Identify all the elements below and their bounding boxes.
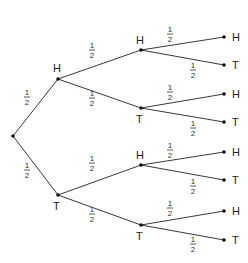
fraction-denominator: 2 xyxy=(90,215,95,224)
outcome-heads-label: H xyxy=(232,88,240,100)
tree-branch xyxy=(141,50,224,65)
probability-fraction: 12 xyxy=(190,61,196,80)
probability-fraction: 12 xyxy=(89,89,95,108)
tree-node xyxy=(139,223,143,227)
outcome-tails-label: T xyxy=(53,200,60,212)
outcome-tails-label: T xyxy=(232,116,239,128)
fraction-numerator: 1 xyxy=(191,177,196,186)
fraction-numerator: 1 xyxy=(191,235,196,244)
tree-branch xyxy=(141,108,224,122)
probability-fraction: 12 xyxy=(167,199,173,218)
tree-branch xyxy=(58,79,141,108)
tree-branch xyxy=(141,211,224,225)
fraction-numerator: 1 xyxy=(168,199,173,208)
probability-fraction: 12 xyxy=(167,25,173,44)
tree-node xyxy=(222,178,226,182)
probability-fraction: 12 xyxy=(190,177,196,196)
tree-branch xyxy=(58,165,141,195)
tree-node xyxy=(222,150,226,154)
tree-branch xyxy=(58,195,141,225)
fraction-numerator: 1 xyxy=(25,161,30,170)
probability-fraction: 12 xyxy=(167,141,173,160)
fraction-denominator: 2 xyxy=(168,35,173,44)
fraction-denominator: 2 xyxy=(25,98,30,107)
fraction-numerator: 1 xyxy=(168,25,173,34)
fraction-denominator: 2 xyxy=(168,209,173,218)
fraction-denominator: 2 xyxy=(25,171,30,180)
outcome-tails-label: T xyxy=(136,230,143,242)
fraction-numerator: 1 xyxy=(90,205,95,214)
tree-node xyxy=(222,35,226,39)
outcome-heads-label: H xyxy=(232,31,240,43)
probability-tree-diagram: 1212121212121212121212121212 HTHTHTHTHTH… xyxy=(0,0,248,263)
probability-fraction: 12 xyxy=(190,119,196,138)
outcome-tails-label: T xyxy=(136,113,143,125)
tree-branch xyxy=(13,136,58,195)
outcome-tails-label: T xyxy=(232,59,239,71)
outcome-tails-label: T xyxy=(232,234,239,246)
tree-branch xyxy=(141,165,224,180)
fraction-denominator: 2 xyxy=(90,99,95,108)
probability-fraction: 12 xyxy=(89,41,95,60)
outcome-heads-label: H xyxy=(53,62,61,74)
fraction-numerator: 1 xyxy=(90,89,95,98)
fraction-denominator: 2 xyxy=(90,164,95,173)
outcome-heads-label: H xyxy=(232,205,240,217)
tree-branch xyxy=(141,94,224,108)
probability-fraction: 12 xyxy=(24,88,30,107)
outcome-heads-label: H xyxy=(136,34,144,46)
probability-fraction: 12 xyxy=(167,83,173,102)
tree-branch xyxy=(141,37,224,50)
outcome-tails-label: T xyxy=(232,174,239,186)
tree-branch xyxy=(141,225,224,240)
fraction-denominator: 2 xyxy=(168,151,173,160)
fraction-denominator: 2 xyxy=(191,71,196,80)
probability-fraction: 12 xyxy=(24,161,30,180)
outcome-heads-label: H xyxy=(136,149,144,161)
fraction-numerator: 1 xyxy=(191,119,196,128)
fraction-numerator: 1 xyxy=(191,61,196,70)
probability-fraction: 12 xyxy=(89,205,95,224)
tree-node xyxy=(222,92,226,96)
root-node xyxy=(11,134,15,138)
tree-branch xyxy=(13,79,58,136)
fraction-denominator: 2 xyxy=(191,245,196,254)
fraction-numerator: 1 xyxy=(90,41,95,50)
probability-fraction: 12 xyxy=(89,154,95,173)
tree-node xyxy=(222,63,226,67)
tree-node xyxy=(139,106,143,110)
tree-branch xyxy=(141,152,224,165)
tree-node xyxy=(56,193,60,197)
tree-node xyxy=(222,209,226,213)
fraction-numerator: 1 xyxy=(90,154,95,163)
tree-node xyxy=(222,120,226,124)
tree-branch xyxy=(58,50,141,79)
tree-node xyxy=(56,77,60,81)
tree-node xyxy=(139,48,143,52)
fraction-denominator: 2 xyxy=(168,93,173,102)
tree-node xyxy=(222,238,226,242)
probability-fraction: 12 xyxy=(190,235,196,254)
fraction-denominator: 2 xyxy=(191,129,196,138)
tree-node xyxy=(139,163,143,167)
fraction-numerator: 1 xyxy=(168,83,173,92)
fraction-denominator: 2 xyxy=(191,187,196,196)
fraction-numerator: 1 xyxy=(25,88,30,97)
outcome-heads-label: H xyxy=(232,146,240,158)
fraction-numerator: 1 xyxy=(168,141,173,150)
fraction-denominator: 2 xyxy=(90,51,95,60)
